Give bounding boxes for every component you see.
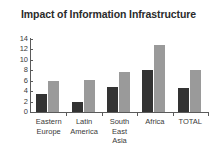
y-axis-tick-label: 14 [12, 35, 28, 43]
y-axis-tick-label-text: 12 [12, 45, 28, 53]
y-axis-tick-label: 10 [12, 56, 28, 64]
y-axis-tick-mark [30, 112, 33, 113]
plot-area [31, 39, 208, 112]
bar [142, 70, 153, 112]
bar [84, 80, 95, 112]
y-axis-tick-label-text: 2 [12, 98, 28, 106]
bar [36, 94, 47, 112]
y-axis-tick-label: 8 [12, 66, 28, 74]
x-axis-category-label: South East Asia [102, 117, 137, 146]
bar [154, 45, 165, 112]
x-axis-line [30, 112, 209, 113]
x-axis-category-label: Eastern Europe [31, 117, 66, 136]
y-axis-tick-label-text: 4 [12, 87, 28, 95]
x-axis-tick-mark [66, 113, 67, 116]
y-axis-tick-label-text: 8 [12, 66, 28, 74]
bar [190, 70, 201, 112]
chart-title: Impact of Information Infrastructure [0, 8, 217, 21]
y-axis-tick-label-text: 6 [12, 77, 28, 85]
x-axis-tick-mark [208, 113, 209, 116]
bar [72, 102, 83, 112]
y-axis-tick-label: 0 [12, 108, 28, 116]
bar [119, 72, 130, 112]
x-axis-category-label: Latin America [66, 117, 101, 136]
bar-chart: Impact of Information Infrastructure 024… [0, 0, 217, 162]
y-axis-tick-label: 2 [12, 98, 28, 106]
x-axis-category-label: Africa [137, 117, 172, 127]
x-axis-tick-mark [102, 113, 103, 116]
x-axis-tick-mark [173, 113, 174, 116]
y-axis-tick-label: 6 [12, 77, 28, 85]
x-axis-tick-mark [137, 113, 138, 116]
y-axis-tick-label-text: 10 [12, 56, 28, 64]
bar [107, 87, 118, 112]
y-axis-tick-label-text: 0 [12, 108, 28, 116]
y-axis-tick-label: 4 [12, 87, 28, 95]
bar [178, 88, 189, 112]
x-axis-category-label: TOTAL [173, 117, 208, 127]
bar [48, 81, 59, 112]
y-axis-tick-label-text: 14 [12, 35, 28, 43]
y-axis-tick-label: 12 [12, 45, 28, 53]
